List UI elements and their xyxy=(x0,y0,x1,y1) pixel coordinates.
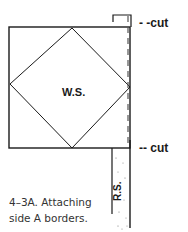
top-cut-label: - -cut xyxy=(139,16,168,30)
bottom-cut-label: -- cut xyxy=(139,141,168,155)
caption-line-1: 4–3A. Attaching xyxy=(9,194,92,210)
figure-caption: 4–3A. Attaching side A borders. xyxy=(9,194,92,226)
wrong-side-label: W.S. xyxy=(62,86,85,98)
caption-line-2: side A borders. xyxy=(9,210,92,226)
right-side-label: R.S. xyxy=(112,182,123,201)
